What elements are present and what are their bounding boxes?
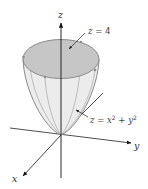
y-axis (10, 128, 131, 143)
x-axis (23, 135, 61, 176)
surface-equation-label: z = x2 + y2 (89, 112, 137, 125)
x-axis-label: x (12, 173, 18, 184)
y-axis-label: y (133, 140, 140, 151)
paraboloid-diagram: z y x z = 4 z = x2 + y2 (0, 0, 148, 189)
top-plane-label: z = 4 (87, 26, 110, 36)
z-axis-label: z (57, 9, 64, 20)
